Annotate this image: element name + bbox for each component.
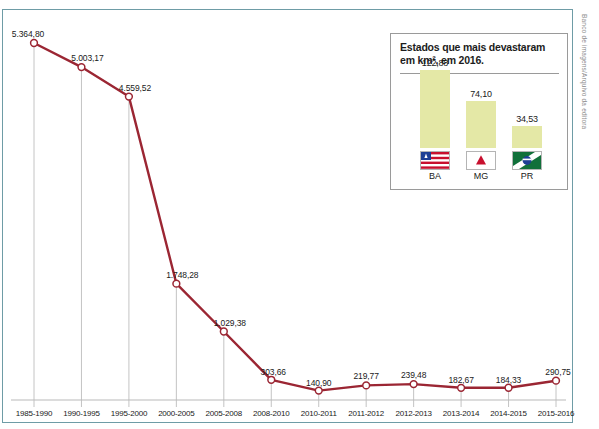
x-axis-label: 2012-2013 [389,409,439,418]
inset-bar-category-label: BA [413,171,457,181]
chart-page: Banco de imagens/Arquivo da editora 5.36… [0,0,599,429]
data-point-marker [315,387,322,394]
inset-bar-column: 122,88BA [413,58,457,181]
data-value-label: 1.748,28 [166,270,198,280]
x-axis-ticks [34,400,556,407]
data-point-marker [220,328,227,335]
flag-bahia-icon [420,151,450,170]
inset-bar-category-label: MG [459,171,503,181]
data-point-marker [363,382,370,389]
data-value-label: 184,33 [496,375,521,385]
data-point-marker [268,376,275,383]
inset-bar-value-label: 122,88 [413,58,457,68]
data-value-label: 219,77 [353,371,378,381]
data-value-label: 5.364,80 [12,29,44,39]
x-axis-label: 1990-1995 [56,409,106,418]
inset-bar [512,126,542,148]
flag-minas-gerais-icon [466,151,496,170]
x-axis-label: 2011-2012 [341,409,391,418]
inset-bar [420,70,450,148]
inset-title-line1: Estados que mais devastaram [400,41,545,53]
x-axis-label: 2010-2011 [294,409,344,418]
data-point-marker [553,377,560,384]
x-axis-label: 2015-2016 [531,409,581,418]
data-value-label: 303,66 [261,367,286,377]
x-axis-label: 1985-1990 [9,409,59,418]
data-value-label: 140,90 [306,378,331,388]
inset-bar-value-label: 74,10 [459,89,503,99]
data-point-marker [78,64,85,71]
image-credit-text: Banco de imagens/Arquivo da editora [581,14,588,18]
inset-bar [466,101,496,148]
x-axis-label: 2013-2014 [436,409,486,418]
inset-bar-value-label: 34,53 [505,114,549,124]
inset-bar-category-label: PR [505,171,549,181]
x-axis-label: 2014-2015 [484,409,534,418]
data-point-marker [505,384,512,391]
data-value-label: 290,75 [545,367,570,377]
inset-bar-column: 74,10MG [459,89,503,181]
cropped-caption [0,0,599,8]
data-point-marker [126,93,133,100]
inset-bar-chart-panel: Estados que mais devastaram em km², em 2… [390,33,568,190]
x-axis-label: 2000-2005 [151,409,201,418]
x-axis-label: 2008-2010 [246,409,296,418]
inset-bar-column: 34,53PR [505,114,549,181]
x-axis-label: 2005-2008 [199,409,249,418]
data-value-label: 239,48 [401,370,426,380]
x-axis-label: 1995-2000 [104,409,154,418]
data-value-label: 5.003,17 [71,53,103,63]
data-point-marker [31,40,38,47]
data-point-marker [410,381,417,388]
image-credit: Banco de imagens/Arquivo da editora [578,14,592,214]
data-value-label: 1.029,38 [214,318,246,328]
chart-frame: 5.364,805.003,174.559,521.748,281.029,38… [2,9,573,423]
data-point-marker [173,280,180,287]
data-value-label: 4.559,52 [119,83,151,93]
data-value-label: 182,67 [448,375,473,385]
flag-parana-icon [512,151,542,170]
data-point-marker [458,384,465,391]
